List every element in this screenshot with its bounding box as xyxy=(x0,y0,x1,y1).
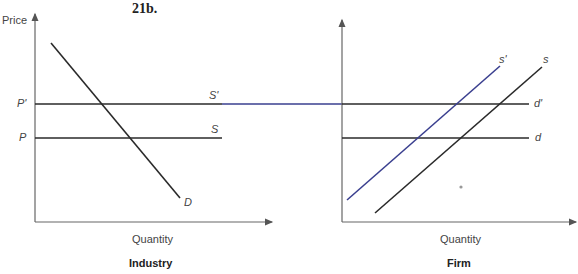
firm-d-label: d xyxy=(535,131,541,143)
firm-supply-s xyxy=(375,67,542,213)
diagram-canvas xyxy=(0,0,578,274)
firm-supply-s-prime xyxy=(347,66,500,200)
price-p-label: P xyxy=(19,131,26,143)
firm-panel-label: Firm xyxy=(447,257,471,269)
firm-d-prime-label: d' xyxy=(534,97,542,109)
figure-title: 21b. xyxy=(132,1,157,17)
industry-demand-d xyxy=(51,43,180,198)
industry-s-label: S xyxy=(211,123,218,135)
firm-s-prime-label: s' xyxy=(499,53,507,65)
industry-d-label: D xyxy=(184,196,192,208)
industry-x-axis-label: Quantity xyxy=(132,233,173,245)
industry-y-axis-label: Price xyxy=(2,14,27,26)
industry-s-prime-label: S' xyxy=(209,89,218,101)
price-p-prime-label: P' xyxy=(17,97,26,109)
firm-x-axis-label: Quantity xyxy=(440,233,481,245)
scan-artifact-dot xyxy=(459,185,462,188)
firm-s-label: s xyxy=(543,53,549,65)
industry-panel-label: Industry xyxy=(129,257,172,269)
